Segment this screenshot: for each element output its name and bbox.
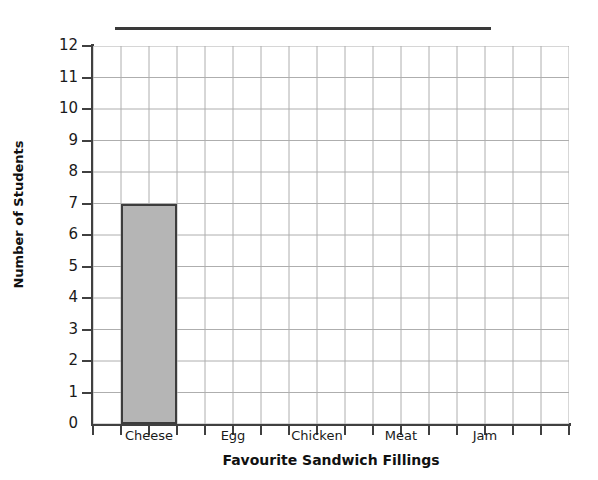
x-category-label-cheese: Cheese xyxy=(121,428,177,443)
y-tick-label: 8 xyxy=(54,164,78,179)
y-tick-mark xyxy=(82,77,92,79)
y-tick-mark xyxy=(82,108,92,110)
y-tick-label: 10 xyxy=(54,101,78,116)
title-write-on-rule xyxy=(115,27,491,30)
y-tick-label: 7 xyxy=(54,196,78,211)
y-tick-mark xyxy=(82,297,92,299)
y-tick-mark xyxy=(82,392,92,394)
y-tick-label: 11 xyxy=(54,70,78,85)
y-tick-mark xyxy=(82,360,92,362)
x-category-label-chicken: Chicken xyxy=(289,428,345,443)
y-tick-mark xyxy=(82,234,92,236)
bar-chart-worksheet: Number of Students 1211109876543210 Favo… xyxy=(0,0,598,480)
x-category-label-meat: Meat xyxy=(373,428,429,443)
y-tick-label: 12 xyxy=(54,38,78,53)
y-tick-mark xyxy=(82,45,92,47)
x-tick-mark xyxy=(92,426,94,435)
x-tick-mark xyxy=(568,426,570,435)
y-tick-label: 3 xyxy=(54,322,78,337)
y-axis-tick-labels: 1211109876543210 xyxy=(50,0,78,480)
y-tick-label: 4 xyxy=(54,290,78,305)
x-tick-mark xyxy=(540,426,542,435)
y-tick-label: 0 xyxy=(54,416,78,431)
x-category-label-egg: Egg xyxy=(205,428,261,443)
y-tick-mark xyxy=(82,171,92,173)
bar-cheese xyxy=(121,204,177,425)
chart-title xyxy=(115,6,491,26)
y-tick-label: 1 xyxy=(54,385,78,400)
y-tick-mark xyxy=(82,266,92,268)
y-tick-mark xyxy=(82,329,92,331)
y-axis-title: Number of Students xyxy=(11,135,26,295)
x-axis-title: Favourite Sandwich Fillings xyxy=(93,452,569,468)
y-tick-label: 2 xyxy=(54,353,78,368)
y-tick-mark xyxy=(82,140,92,142)
y-tick-label: 6 xyxy=(54,227,78,242)
x-category-label-jam: Jam xyxy=(457,428,513,443)
y-tick-mark xyxy=(82,203,92,205)
y-tick-label: 5 xyxy=(54,259,78,274)
y-tick-label: 9 xyxy=(54,133,78,148)
